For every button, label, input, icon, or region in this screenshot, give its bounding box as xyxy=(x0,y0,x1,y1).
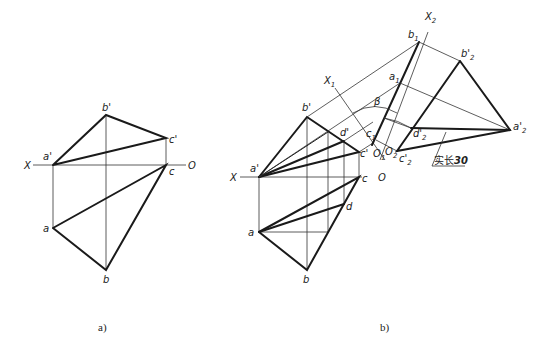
true-length-annotation: 实长30 xyxy=(434,154,468,166)
caption-a: a) xyxy=(98,321,107,334)
projector-b2 xyxy=(419,42,460,61)
projector-d2 xyxy=(384,118,411,128)
label-d-prime: d' xyxy=(340,127,349,138)
top-view-triangle xyxy=(53,165,166,270)
true-length-line xyxy=(411,128,510,130)
label-o: O xyxy=(188,160,196,171)
label-x: X xyxy=(229,172,238,183)
label-a-prime: a' xyxy=(43,151,52,162)
caption-b: b) xyxy=(380,321,390,334)
label-c: c xyxy=(362,173,368,184)
label-beta: β xyxy=(373,96,381,107)
figure-b: X O a' b' c' d' a b c d X1 X2 b1 a1 c1 O… xyxy=(229,11,527,334)
label-d: d xyxy=(346,201,353,212)
label-c-prime: c' xyxy=(360,148,368,159)
label-a: a xyxy=(248,227,254,238)
label-c2-prime: c'2 xyxy=(399,153,412,167)
label-a-prime: a' xyxy=(250,163,259,174)
label-b-prime: b' xyxy=(302,102,311,113)
label-b: b xyxy=(103,274,109,285)
label-a: a xyxy=(43,223,49,234)
label-o: O xyxy=(378,172,386,183)
label-o2: O2 xyxy=(385,146,398,160)
label-x1: X1 xyxy=(323,75,335,89)
label-c-prime: c' xyxy=(169,134,177,145)
label-c: c xyxy=(169,166,175,177)
label-x2: X2 xyxy=(424,11,437,25)
label-c1: c1 xyxy=(366,128,376,142)
front-view-triangle xyxy=(53,115,166,165)
label-b: b xyxy=(303,274,309,285)
label-a1: a1 xyxy=(389,71,400,85)
label-a2-prime: a'2 xyxy=(513,121,527,135)
label-x: X xyxy=(23,160,32,171)
label-b-prime: b' xyxy=(102,102,111,113)
projection-drawing: X O a' b' c' c a b a) xyxy=(0,0,538,361)
label-b1: b1 xyxy=(408,29,419,43)
label-d2-prime: d'2 xyxy=(413,128,427,142)
label-b2-prime: b'2 xyxy=(461,48,475,62)
beta-arc xyxy=(353,107,397,114)
figure-a: X O a' b' c' c a b a) xyxy=(23,102,196,334)
